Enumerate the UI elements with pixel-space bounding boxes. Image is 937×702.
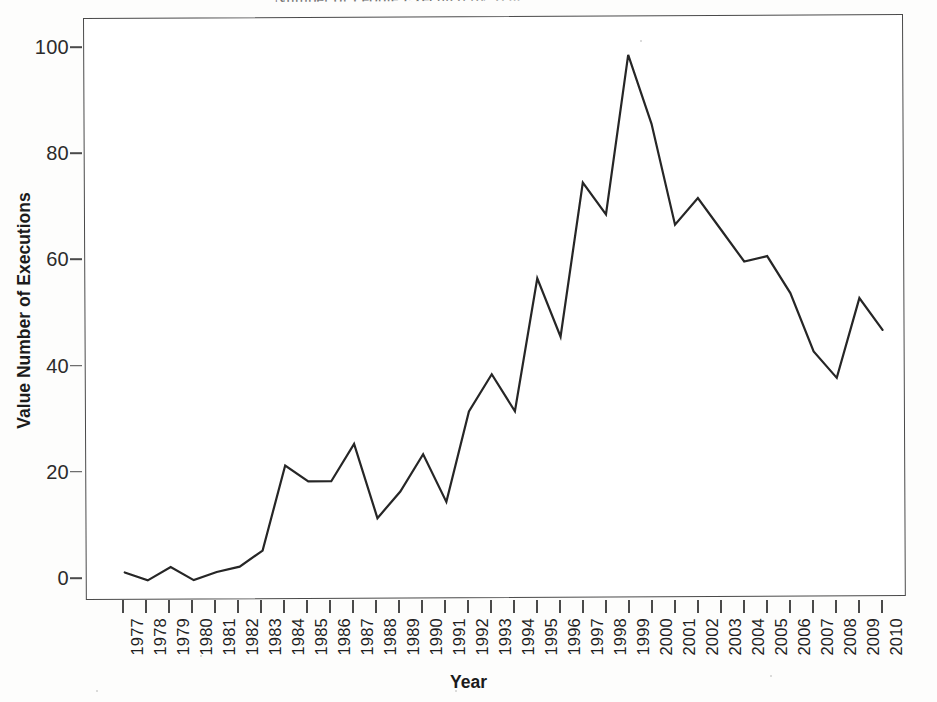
- chart-page: Number of People Executed by Year Value …: [0, 0, 937, 702]
- x-tick-label: 1982: [243, 618, 262, 656]
- x-tick-mark: [444, 600, 446, 613]
- x-tick-mark: [329, 600, 331, 613]
- x-tick-mark: [697, 600, 699, 613]
- x-tick-label: 1977: [128, 618, 147, 656]
- y-tick-label: 40: [46, 354, 69, 377]
- plot-area: [83, 14, 906, 600]
- x-tick-label: 1987: [358, 618, 377, 656]
- x-tick-mark: [214, 600, 216, 613]
- x-tick-mark: [375, 600, 377, 613]
- x-tick-label: 1985: [312, 618, 331, 656]
- y-tick-label: 20: [46, 460, 69, 483]
- x-tick-label: 2009: [864, 618, 883, 656]
- y-tick-mark: [70, 152, 82, 154]
- x-tick-mark: [398, 600, 400, 613]
- x-tick-label: 1999: [634, 618, 653, 656]
- x-tick-label: 2001: [680, 618, 699, 656]
- y-tick-label: 60: [46, 248, 69, 271]
- x-tick-mark: [260, 600, 262, 613]
- x-tick-label: 1996: [565, 618, 584, 656]
- x-tick-label: 1983: [266, 618, 285, 656]
- x-tick-mark: [283, 600, 285, 613]
- y-axis-title: Value Number of Executions: [14, 121, 35, 501]
- x-tick-mark: [536, 600, 538, 613]
- scan-speckle: [200, 655, 202, 657]
- scan-speckle: [96, 690, 98, 692]
- x-tick-label: 2007: [818, 618, 837, 656]
- x-tick-label: 2002: [703, 618, 722, 656]
- x-tick-mark: [743, 600, 745, 613]
- x-tick-label: 2000: [657, 618, 676, 656]
- x-axis-title: Year: [0, 672, 937, 693]
- x-tick-mark: [352, 600, 354, 613]
- y-tick-mark: [70, 365, 82, 367]
- x-tick-mark: [168, 600, 170, 613]
- line-series-svg: [83, 14, 906, 600]
- x-tick-mark: [789, 600, 791, 613]
- x-tick-label: 2005: [772, 618, 791, 656]
- x-tick-label: 1980: [197, 618, 216, 656]
- x-tick-mark: [467, 600, 469, 613]
- x-tick-label: 1993: [496, 618, 515, 656]
- x-tick-label: 1992: [473, 618, 492, 656]
- scan-speckle: [455, 690, 457, 692]
- x-tick-label: 2010: [887, 618, 906, 656]
- x-tick-mark: [191, 600, 193, 613]
- x-tick-mark: [835, 600, 837, 613]
- scan-speckle: [770, 675, 772, 677]
- x-tick-mark: [559, 600, 561, 613]
- x-tick-mark: [812, 600, 814, 613]
- x-tick-label: 2006: [795, 618, 814, 656]
- document-title: Number of People Executed by Year: [118, 0, 678, 3]
- x-tick-mark: [605, 600, 607, 613]
- x-tick-label: 1981: [220, 618, 239, 656]
- executions-line: [122, 54, 884, 581]
- x-tick-label: 1997: [588, 618, 607, 656]
- y-tick-mark: [70, 259, 82, 261]
- x-tick-label: 1986: [335, 618, 354, 656]
- y-tick-label: 0: [58, 567, 69, 590]
- x-tick-label: 1998: [611, 618, 630, 656]
- x-tick-mark: [513, 600, 515, 613]
- x-tick-mark: [628, 600, 630, 613]
- x-tick-label: 1990: [427, 618, 446, 656]
- x-tick-mark: [306, 600, 308, 613]
- y-tick-mark: [70, 577, 82, 579]
- x-tick-label: 2003: [726, 618, 745, 656]
- y-tick-mark: [70, 471, 82, 473]
- x-tick-mark: [582, 600, 584, 613]
- x-tick-label: 1994: [519, 618, 538, 656]
- x-tick-mark: [858, 600, 860, 613]
- x-tick-label: 1979: [174, 618, 193, 656]
- x-tick-label: 1978: [151, 618, 170, 656]
- x-tick-label: 1995: [542, 618, 561, 656]
- x-tick-label: 1989: [404, 618, 423, 656]
- y-tick-label: 80: [46, 142, 69, 165]
- x-tick-label: 1984: [289, 618, 308, 656]
- x-tick-mark: [122, 600, 124, 613]
- x-tick-mark: [421, 600, 423, 613]
- x-tick-label: 1988: [381, 618, 400, 656]
- x-tick-label: 1991: [450, 618, 469, 656]
- x-tick-label: 2004: [749, 618, 768, 656]
- x-tick-mark: [720, 600, 722, 613]
- x-tick-mark: [237, 600, 239, 613]
- scan-speckle: [640, 40, 642, 42]
- y-tick-mark: [70, 46, 82, 48]
- x-tick-mark: [490, 600, 492, 613]
- x-tick-label: 2008: [841, 618, 860, 656]
- y-tick-label: 100: [35, 36, 69, 59]
- x-tick-mark: [766, 600, 768, 613]
- y-axis: Value Number of Executions 020406080100: [0, 0, 83, 620]
- x-tick-mark: [145, 600, 147, 613]
- x-tick-mark: [674, 600, 676, 613]
- x-tick-mark: [881, 600, 883, 613]
- x-tick-mark: [651, 600, 653, 613]
